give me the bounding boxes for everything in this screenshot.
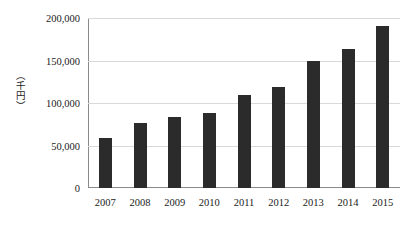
bar-slot — [123, 18, 158, 188]
plot-area — [88, 18, 400, 188]
x-tick-slot: 2011 — [227, 192, 262, 212]
bar-slot — [296, 18, 331, 188]
x-tick-slot: 2009 — [157, 192, 192, 212]
bar-slot — [227, 18, 262, 188]
bar[interactable] — [134, 123, 147, 188]
x-axis-tick-label: 2011 — [234, 197, 255, 208]
x-axis-tick-label: 2008 — [130, 197, 151, 208]
bar[interactable] — [376, 26, 389, 188]
x-tick-slot: 2007 — [88, 192, 123, 212]
bar[interactable] — [342, 49, 355, 188]
x-tick-slot: 2015 — [365, 192, 400, 212]
y-axis-tick-label: 100,000 — [46, 98, 80, 109]
x-axis-tick-label: 2014 — [338, 197, 359, 208]
bar[interactable] — [203, 113, 216, 188]
y-axis-tick-label-group: 200,000 150,000 100,000 50,000 0 — [26, 0, 84, 227]
x-axis-tick-label-group: 2007 2008 2009 2010 2011 2012 2013 2014 … — [88, 192, 400, 212]
x-axis-tick-label: 2015 — [372, 197, 393, 208]
bar[interactable] — [99, 138, 112, 188]
bar-slot — [261, 18, 296, 188]
x-axis-tick-label: 2012 — [268, 197, 289, 208]
x-tick-slot: 2010 — [192, 192, 227, 212]
x-axis-tick-label: 2013 — [303, 197, 324, 208]
bar[interactable] — [168, 117, 181, 188]
bar-slot — [331, 18, 366, 188]
bar-slot — [88, 18, 123, 188]
bar[interactable] — [307, 61, 320, 188]
bar-chart: （千円） 200,000 150,000 100,000 50,000 0 20… — [0, 0, 411, 227]
bar[interactable] — [238, 95, 251, 188]
y-axis-tick-label: 50,000 — [51, 140, 80, 151]
x-axis-tick-label: 2007 — [95, 197, 116, 208]
x-axis-tick-label: 2010 — [199, 197, 220, 208]
bar-series — [88, 18, 400, 188]
y-axis-tick-label: 200,000 — [46, 13, 80, 24]
bar-slot — [365, 18, 400, 188]
x-axis-tick-label: 2009 — [164, 197, 185, 208]
bar-slot — [192, 18, 227, 188]
x-tick-slot: 2013 — [296, 192, 331, 212]
bar[interactable] — [272, 87, 285, 188]
y-axis-tick-label: 0 — [75, 183, 80, 194]
x-tick-slot: 2008 — [123, 192, 158, 212]
bar-slot — [157, 18, 192, 188]
x-tick-slot: 2012 — [261, 192, 296, 212]
x-tick-slot: 2014 — [331, 192, 366, 212]
y-axis-tick-label: 150,000 — [46, 55, 80, 66]
